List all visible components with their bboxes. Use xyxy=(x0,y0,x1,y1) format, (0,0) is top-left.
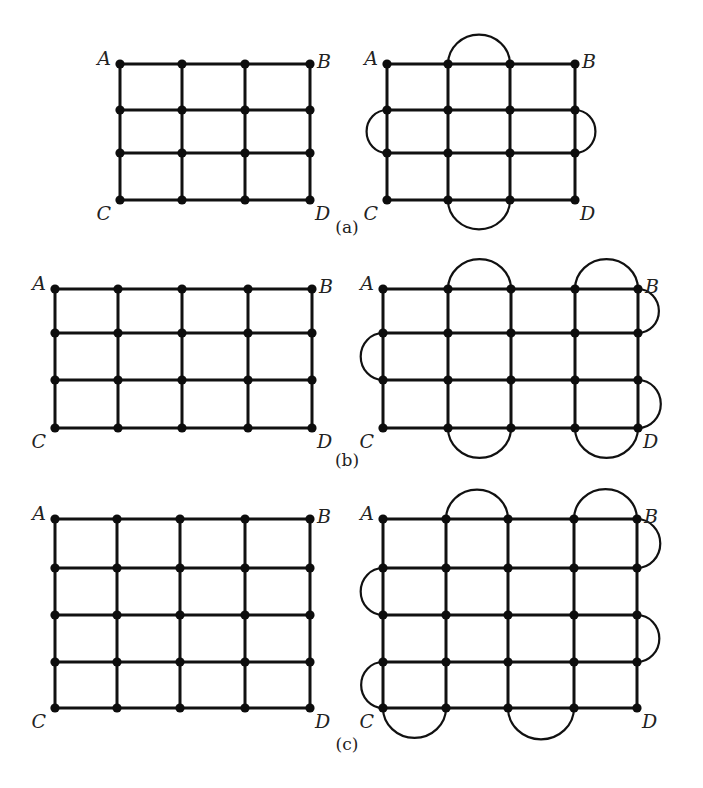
vertex-dot xyxy=(441,610,450,619)
corner-label-c: C xyxy=(363,202,378,224)
vertex-dot xyxy=(382,148,391,157)
vertex-dot xyxy=(569,703,578,712)
vertex-dot xyxy=(378,375,387,384)
corner-label-d: D xyxy=(579,202,595,224)
vertex-dot xyxy=(305,59,314,68)
added-edge-arc-left xyxy=(367,110,387,153)
vertex-dot xyxy=(50,610,59,619)
vertex-dot xyxy=(633,328,642,337)
corner-label-a: A xyxy=(362,47,378,69)
vertex-dot xyxy=(175,563,184,572)
added-edge-arc-bottom xyxy=(383,708,446,738)
corner-label-d: D xyxy=(642,430,658,452)
grid-c-left: ABCD xyxy=(30,502,331,732)
vertex-dot xyxy=(505,148,514,157)
vertex-dot xyxy=(307,284,316,293)
corner-label-a: A xyxy=(30,502,46,524)
corner-label-b: B xyxy=(643,505,658,527)
vertex-dot xyxy=(243,375,252,384)
vertex-dot xyxy=(113,284,122,293)
corner-label-c: C xyxy=(96,202,111,224)
vertex-dot xyxy=(112,514,121,523)
vertex-dot xyxy=(505,59,514,68)
vertex-dot xyxy=(570,195,579,204)
vertex-dot xyxy=(240,610,249,619)
vertex-dot xyxy=(443,105,452,114)
vertex-dot xyxy=(378,657,387,666)
vertex-dot xyxy=(382,195,391,204)
vertex-dot xyxy=(632,610,641,619)
vertex-dot xyxy=(177,105,186,114)
corner-label-d: D xyxy=(314,202,330,224)
diagram-layer: ABCDABCD(a)ABCDABCD(b)ABCDABCD(c) xyxy=(30,35,661,754)
diagram-caption-b: (b) xyxy=(335,450,359,470)
vertex-dot xyxy=(305,657,314,666)
grid-a-right: ABCD xyxy=(362,35,596,230)
vertex-dot xyxy=(112,563,121,572)
vertex-dot xyxy=(50,328,59,337)
vertex-dot xyxy=(378,610,387,619)
vertex-dot xyxy=(503,610,512,619)
vertex-dot xyxy=(50,423,59,432)
vertex-dot xyxy=(570,284,579,293)
vertex-dot xyxy=(503,657,512,666)
vertex-dot xyxy=(50,703,59,712)
vertex-dot xyxy=(177,284,186,293)
vertex-dot xyxy=(177,195,186,204)
grid-c-right: ABCD xyxy=(358,489,660,739)
vertex-dot xyxy=(112,610,121,619)
vertex-dot xyxy=(569,657,578,666)
added-edge-arc-right xyxy=(638,380,661,428)
vertex-dot xyxy=(378,284,387,293)
added-edge-arc-top xyxy=(446,490,508,519)
vertex-dot xyxy=(305,610,314,619)
added-edge-arc-left xyxy=(361,662,383,708)
vertex-dot xyxy=(441,657,450,666)
corner-label-a: A xyxy=(358,272,374,294)
vertex-dot xyxy=(243,284,252,293)
added-edge-arc-bottom xyxy=(448,428,511,458)
vertex-dot xyxy=(632,563,641,572)
vertex-dot xyxy=(633,375,642,384)
vertex-dot xyxy=(378,423,387,432)
diagram-c: ABCDABCD(c) xyxy=(30,489,660,754)
vertex-dot xyxy=(378,328,387,337)
vertex-dot xyxy=(175,703,184,712)
vertex-dot xyxy=(443,195,452,204)
vertex-dot xyxy=(570,148,579,157)
vertex-dot xyxy=(441,514,450,523)
added-edge-arc-left xyxy=(361,333,383,380)
vertex-dot xyxy=(378,703,387,712)
vertex-dot xyxy=(240,514,249,523)
vertex-dot xyxy=(570,328,579,337)
vertex-dot xyxy=(240,657,249,666)
vertex-dot xyxy=(115,105,124,114)
corner-label-d: D xyxy=(641,710,657,732)
vertex-dot xyxy=(307,328,316,337)
corner-label-b: B xyxy=(581,50,596,72)
vertex-dot xyxy=(175,610,184,619)
corner-label-a: A xyxy=(95,47,111,69)
added-edge-arc-left xyxy=(361,568,383,615)
vertex-dot xyxy=(243,328,252,337)
vertex-dot xyxy=(240,563,249,572)
vertex-dot xyxy=(441,563,450,572)
vertex-dot xyxy=(382,59,391,68)
vertex-dot xyxy=(505,105,514,114)
added-edge-arc-bottom xyxy=(448,200,510,229)
corner-label-c: C xyxy=(359,430,374,452)
vertex-dot xyxy=(378,563,387,572)
vertex-dot xyxy=(305,148,314,157)
vertex-dot xyxy=(305,105,314,114)
vertex-dot xyxy=(443,59,452,68)
vertex-dot xyxy=(505,195,514,204)
vertex-dot xyxy=(305,195,314,204)
vertex-dot xyxy=(570,423,579,432)
vertex-dot xyxy=(443,423,452,432)
vertex-dot xyxy=(113,375,122,384)
vertex-dot xyxy=(240,703,249,712)
corner-label-b: B xyxy=(318,275,333,297)
vertex-dot xyxy=(113,328,122,337)
vertex-dot xyxy=(177,59,186,68)
vertex-dot xyxy=(240,59,249,68)
